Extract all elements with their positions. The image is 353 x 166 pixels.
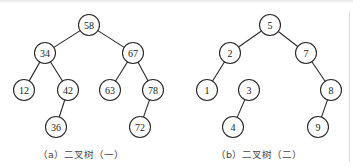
- tree-node-7: 7: [296, 43, 317, 64]
- tree-node-2: 2: [220, 43, 241, 64]
- caption-tree-a: （a）二叉树（一）: [38, 147, 124, 161]
- tree-node-4: 4: [223, 117, 244, 138]
- tree-edge-5-7: [278, 31, 297, 46]
- tree-node-5: 5: [260, 15, 281, 36]
- tree-node-8: 8: [321, 80, 342, 101]
- tree-node-3: 3: [239, 80, 260, 101]
- node-label: 3: [247, 85, 252, 96]
- node-label: 2: [228, 48, 233, 59]
- tree-edge-8-9: [321, 100, 327, 117]
- tree-node-9: 9: [308, 117, 329, 138]
- node-label: 8: [329, 85, 334, 96]
- node-label: 5: [268, 20, 273, 31]
- tree-edge-7-8: [312, 62, 325, 82]
- caption-tree-b: （b）二叉树（二）: [216, 147, 302, 161]
- node-label: 9: [316, 122, 321, 133]
- node-label: 1: [205, 85, 210, 96]
- node-label: 4: [231, 122, 236, 133]
- tree-edge-5-2: [239, 31, 262, 47]
- tree-edge-2-1: [213, 62, 225, 81]
- tree-edge-3-4: [237, 100, 245, 118]
- binary-tree-b: 52713849: [0, 0, 353, 166]
- tree-node-1: 1: [197, 80, 218, 101]
- node-label: 7: [304, 48, 309, 59]
